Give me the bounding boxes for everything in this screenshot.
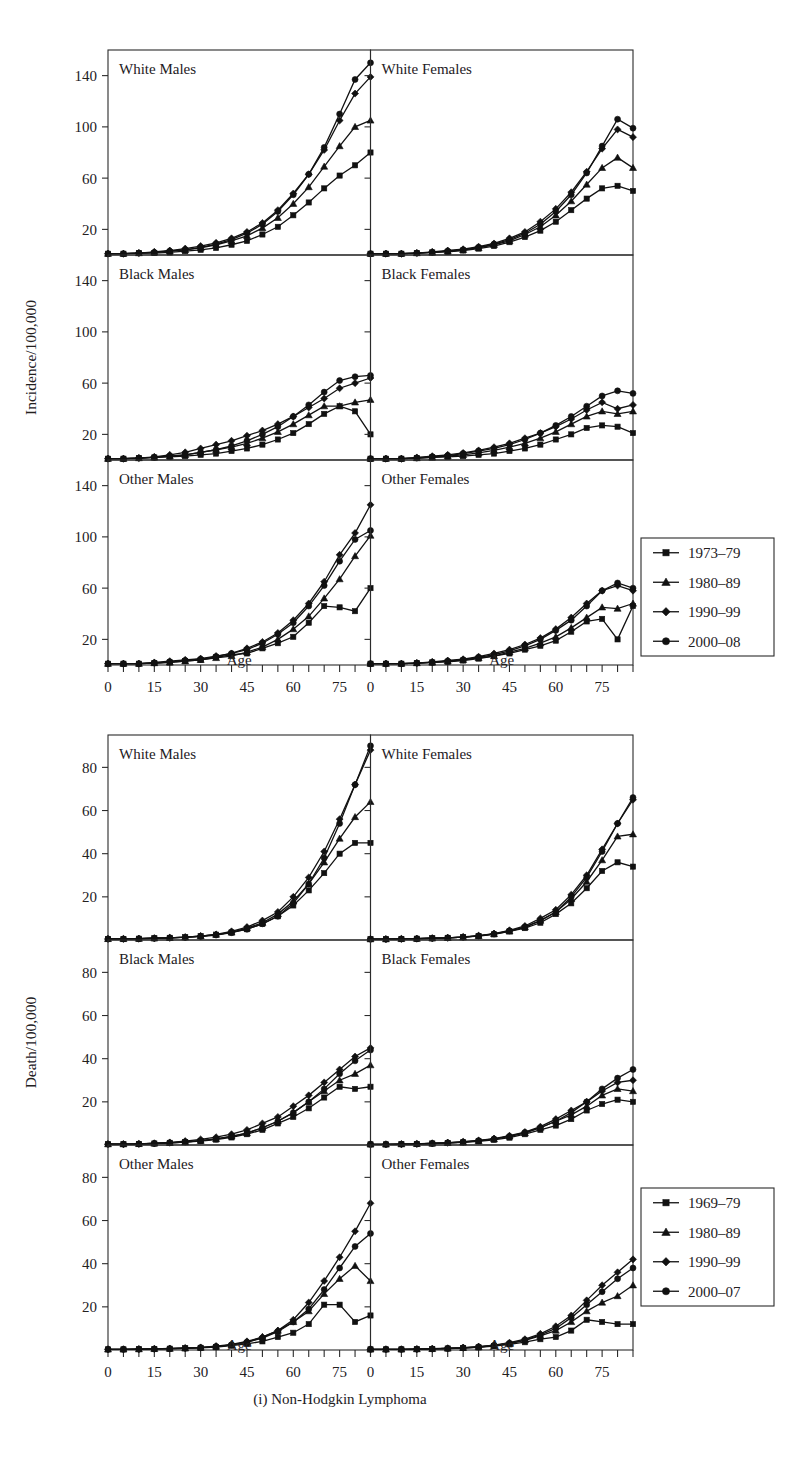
marker-square bbox=[584, 196, 589, 201]
marker-circle bbox=[136, 1346, 142, 1352]
series-line bbox=[108, 77, 371, 254]
series-line bbox=[108, 406, 371, 459]
panel-frame bbox=[108, 1145, 371, 1350]
panel-frame bbox=[371, 460, 634, 665]
marker-triangle bbox=[629, 1282, 636, 1288]
series-1980–89 bbox=[367, 408, 637, 462]
series-1969–79 bbox=[368, 1097, 636, 1147]
marker-square bbox=[630, 1322, 635, 1327]
marker-circle bbox=[151, 660, 157, 666]
marker-circle bbox=[290, 900, 296, 906]
panel-incidence-white-males: White Males2060100140 bbox=[75, 50, 375, 257]
marker-circle bbox=[321, 583, 327, 589]
x-tick-label: 60 bbox=[548, 679, 563, 695]
marker-circle bbox=[398, 936, 404, 942]
marker-circle bbox=[662, 638, 669, 645]
x-tick-label: 0 bbox=[104, 1364, 112, 1380]
marker-circle bbox=[615, 580, 621, 586]
marker-triangle bbox=[629, 831, 636, 837]
x-axis-title: Age bbox=[227, 652, 252, 668]
marker-circle bbox=[429, 1140, 435, 1146]
marker-circle bbox=[429, 1346, 435, 1352]
marker-diamond bbox=[321, 395, 328, 402]
marker-diamond bbox=[629, 401, 636, 408]
marker-circle bbox=[290, 620, 296, 626]
panel-frame bbox=[371, 735, 634, 940]
series-line bbox=[371, 158, 634, 254]
series-line bbox=[108, 536, 371, 664]
marker-circle bbox=[537, 918, 543, 924]
marker-triangle bbox=[552, 633, 559, 639]
panel-title: White Females bbox=[382, 61, 473, 77]
marker-circle bbox=[398, 1346, 404, 1352]
marker-circle bbox=[229, 443, 235, 449]
marker-square bbox=[553, 1334, 558, 1339]
series-line bbox=[108, 378, 371, 459]
marker-square bbox=[322, 186, 327, 191]
marker-square bbox=[306, 888, 311, 893]
marker-circle bbox=[244, 438, 250, 444]
marker-circle bbox=[306, 171, 312, 177]
panel-title: Black Males bbox=[119, 266, 195, 282]
series-line bbox=[108, 746, 371, 939]
series-line bbox=[371, 119, 634, 254]
panel-frame bbox=[108, 940, 371, 1145]
panel-title: Other Females bbox=[382, 471, 470, 487]
marker-circle bbox=[259, 640, 265, 646]
marker-square bbox=[306, 422, 311, 427]
marker-circle bbox=[105, 661, 111, 667]
marker-circle bbox=[352, 782, 358, 788]
marker-circle bbox=[321, 855, 327, 861]
marker-circle bbox=[383, 251, 389, 257]
marker-circle bbox=[599, 849, 605, 855]
marker-square bbox=[538, 442, 543, 447]
series-1990–99 bbox=[104, 1044, 374, 1147]
panel-incidence-black-males: Black Males2060100140 bbox=[75, 255, 375, 462]
marker-circle bbox=[383, 661, 389, 667]
marker-circle bbox=[182, 247, 188, 253]
x-tick-label: 15 bbox=[147, 679, 162, 695]
marker-circle bbox=[182, 658, 188, 664]
marker-circle bbox=[460, 657, 466, 663]
marker-circle bbox=[229, 237, 235, 243]
marker-circle bbox=[383, 456, 389, 462]
marker-square bbox=[291, 213, 296, 218]
marker-circle bbox=[537, 430, 543, 436]
marker-circle bbox=[213, 1136, 219, 1142]
marker-square bbox=[630, 430, 635, 435]
marker-square bbox=[630, 864, 635, 869]
marker-circle bbox=[198, 1138, 204, 1144]
series-line bbox=[371, 186, 634, 254]
marker-circle bbox=[522, 230, 528, 236]
y-tick-label: 100 bbox=[75, 324, 98, 340]
marker-square bbox=[615, 1097, 620, 1102]
panel-death-black-females: Black Females bbox=[365, 940, 637, 1148]
marker-square bbox=[337, 851, 342, 856]
marker-circle bbox=[275, 424, 281, 430]
marker-square bbox=[615, 1322, 620, 1327]
marker-circle bbox=[198, 449, 204, 455]
marker-circle bbox=[522, 1129, 528, 1135]
marker-circle bbox=[584, 603, 590, 609]
marker-circle bbox=[352, 1243, 358, 1249]
panel-frame bbox=[371, 940, 634, 1145]
y-tick-label: 40 bbox=[82, 1051, 97, 1067]
marker-circle bbox=[599, 1086, 605, 1092]
marker-circle bbox=[568, 413, 574, 419]
marker-square bbox=[352, 1319, 357, 1324]
legend-label: 1969–79 bbox=[688, 1195, 741, 1211]
series-line bbox=[371, 798, 634, 940]
panel-title: Other Females bbox=[382, 1156, 470, 1172]
marker-circle bbox=[599, 393, 605, 399]
marker-square bbox=[275, 224, 280, 229]
series-1980–89 bbox=[104, 532, 374, 666]
series-2000–08 bbox=[105, 527, 373, 666]
marker-circle bbox=[506, 1133, 512, 1139]
series-line bbox=[371, 862, 634, 939]
marker-square bbox=[663, 550, 669, 556]
marker-circle bbox=[414, 660, 420, 666]
marker-circle bbox=[615, 116, 621, 122]
marker-triangle bbox=[583, 1308, 590, 1314]
series-line bbox=[371, 411, 634, 458]
marker-circle bbox=[198, 656, 204, 662]
